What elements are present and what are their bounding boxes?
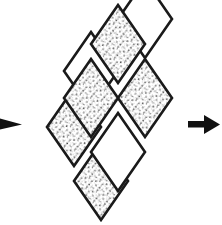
rhombus-weave-figure: [0, 0, 222, 225]
left-arrow: [0, 117, 22, 131]
left-arrow-head: [0, 117, 22, 131]
figure-container: Interlaced rhombus bands diagram: [0, 0, 222, 225]
right-arrow-head: [204, 115, 220, 134]
right-arrow: [188, 115, 220, 134]
